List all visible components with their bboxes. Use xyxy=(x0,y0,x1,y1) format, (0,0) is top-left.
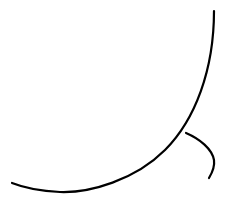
diagram-canvas xyxy=(0,0,229,200)
large-arc-curve xyxy=(12,11,214,192)
small-arc-curve xyxy=(186,133,214,178)
